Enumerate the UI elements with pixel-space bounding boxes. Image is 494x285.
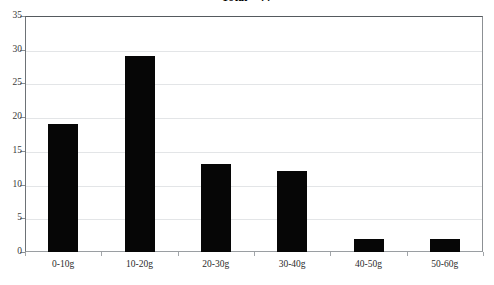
plot-area xyxy=(25,16,483,252)
x-axis-label: 0-10g xyxy=(25,259,101,270)
y-axis-label: 30 xyxy=(0,45,22,55)
gridline xyxy=(26,118,482,119)
x-axis-label: 40-50g xyxy=(330,259,406,270)
histogram-chart: Total = 77 05101520253035 0-10g10-20g20-… xyxy=(0,0,494,285)
gridline xyxy=(26,219,482,220)
y-axis-label: 10 xyxy=(0,180,22,190)
gridline xyxy=(26,186,482,187)
bar xyxy=(354,239,384,252)
y-axis-label: 20 xyxy=(0,112,22,122)
x-axis-tick xyxy=(178,252,179,256)
gridline xyxy=(26,84,482,85)
y-axis-label: 5 xyxy=(0,213,22,223)
bar xyxy=(125,56,155,252)
gridline xyxy=(26,152,482,153)
bar xyxy=(277,171,307,252)
y-axis-label: 25 xyxy=(0,78,22,88)
x-axis-tick xyxy=(25,252,26,256)
y-axis-label: 0 xyxy=(0,247,22,257)
y-axis-label: 35 xyxy=(0,11,22,21)
x-axis-tick xyxy=(483,252,484,256)
y-axis-label: 15 xyxy=(0,146,22,156)
chart-title: Total = 77 xyxy=(0,0,494,3)
x-axis-tick xyxy=(101,252,102,256)
x-axis-label: 30-40g xyxy=(254,259,330,270)
x-axis-label: 50-60g xyxy=(407,259,483,270)
x-axis-tick xyxy=(330,252,331,256)
bar xyxy=(430,239,460,252)
bar xyxy=(48,124,78,252)
x-axis-tick xyxy=(254,252,255,256)
x-axis-tick xyxy=(407,252,408,256)
x-axis-label: 10-20g xyxy=(101,259,177,270)
x-axis-label: 20-30g xyxy=(178,259,254,270)
gridline xyxy=(26,51,482,52)
bar xyxy=(201,164,231,252)
